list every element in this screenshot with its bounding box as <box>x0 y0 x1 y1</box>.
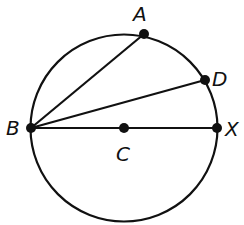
label-x: X <box>224 117 240 141</box>
point-d <box>200 75 210 85</box>
label-b: B <box>6 116 20 140</box>
label-a: A <box>131 2 147 26</box>
label-c: C <box>116 142 130 166</box>
circle-diagram: A D B C X <box>0 0 244 225</box>
label-d: D <box>212 67 227 91</box>
point-x <box>212 123 222 133</box>
point-b <box>26 123 36 133</box>
segment-ba <box>31 34 144 128</box>
point-c <box>119 123 129 133</box>
segment-bd <box>31 80 205 128</box>
point-a <box>139 29 149 39</box>
